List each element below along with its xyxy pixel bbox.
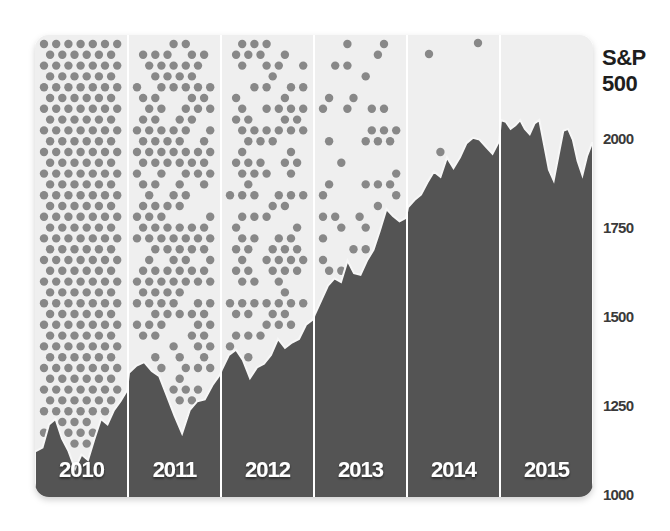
dot <box>232 51 240 59</box>
dot <box>281 159 289 167</box>
dot <box>281 115 289 123</box>
dot <box>52 61 60 69</box>
dot <box>151 353 159 361</box>
year-label-2013: 2013 <box>338 457 384 482</box>
dot <box>113 169 121 177</box>
dot <box>70 396 78 404</box>
dot <box>182 277 190 285</box>
dot <box>95 202 103 210</box>
dot <box>250 83 258 91</box>
dot <box>262 61 270 69</box>
dot <box>95 267 103 275</box>
dot <box>275 321 283 329</box>
dot <box>206 83 214 91</box>
dot <box>293 267 301 275</box>
dot <box>299 105 307 113</box>
dot <box>337 159 345 167</box>
dot <box>151 72 159 80</box>
dot <box>269 72 277 80</box>
dot <box>64 321 72 329</box>
dot <box>101 126 109 134</box>
dot <box>107 288 115 296</box>
dot <box>151 115 159 123</box>
dot <box>40 385 48 393</box>
dot <box>349 94 357 102</box>
dot <box>101 385 109 393</box>
year-label-2010: 2010 <box>59 457 105 482</box>
dot <box>169 148 177 156</box>
dot <box>40 342 48 350</box>
dot <box>157 277 165 285</box>
dot <box>83 72 91 80</box>
dot <box>163 310 171 318</box>
dot <box>157 148 165 156</box>
dot <box>40 191 48 199</box>
dot <box>157 234 165 242</box>
dot <box>95 223 103 231</box>
dot <box>238 213 246 221</box>
dot <box>70 94 78 102</box>
dot <box>58 94 66 102</box>
dot <box>113 299 121 307</box>
dot <box>151 310 159 318</box>
dot <box>194 299 202 307</box>
dot <box>89 40 97 48</box>
dot <box>275 277 283 285</box>
dot <box>244 331 252 339</box>
dot <box>133 234 141 242</box>
dot <box>70 223 78 231</box>
dot <box>169 126 177 134</box>
dot <box>238 61 246 69</box>
dot <box>113 234 121 242</box>
dot <box>76 277 84 285</box>
dot <box>319 105 327 113</box>
dot <box>64 277 72 285</box>
dot <box>64 61 72 69</box>
dot <box>89 83 97 91</box>
dot <box>151 180 159 188</box>
dot <box>163 159 171 167</box>
dot <box>362 223 370 231</box>
dot <box>113 191 121 199</box>
dot <box>269 202 277 210</box>
dot <box>238 277 246 285</box>
dot <box>83 245 91 253</box>
dot <box>46 267 54 275</box>
dot <box>293 223 301 231</box>
dot <box>145 126 153 134</box>
dot <box>46 94 54 102</box>
dot <box>200 51 208 59</box>
dot <box>163 51 171 59</box>
dot <box>107 137 115 145</box>
dot <box>52 385 60 393</box>
dot <box>113 342 121 350</box>
y-tick-1250: 1250 <box>603 397 633 414</box>
dot <box>101 83 109 91</box>
dot <box>70 72 78 80</box>
dot <box>52 256 60 264</box>
dot <box>182 364 190 372</box>
dot <box>95 288 103 296</box>
dot <box>194 83 202 91</box>
dot <box>275 61 283 69</box>
dot <box>287 234 295 242</box>
dot <box>194 234 202 242</box>
dot <box>107 51 115 59</box>
dot <box>145 105 153 113</box>
dot <box>325 137 333 145</box>
dot <box>40 61 48 69</box>
dot <box>133 321 141 329</box>
dot <box>58 310 66 318</box>
dot <box>157 364 165 372</box>
dot <box>269 245 277 253</box>
dot <box>70 137 78 145</box>
dot <box>275 191 283 199</box>
dot <box>287 299 295 307</box>
dot <box>40 126 48 134</box>
dot <box>319 213 327 221</box>
dot <box>176 396 184 404</box>
year-label-2015: 2015 <box>524 457 570 482</box>
dot <box>163 288 171 296</box>
dot <box>200 267 208 275</box>
dot <box>362 180 370 188</box>
